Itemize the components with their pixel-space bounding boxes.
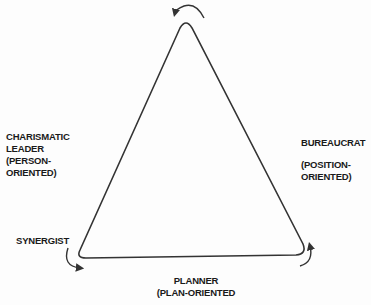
triangle-outline [79, 23, 304, 258]
diagram-canvas: CHARISMATIC LEADER (PERSON- ORIENTED) BU… [0, 0, 371, 305]
label-line: (PLAN-ORIENTED [146, 287, 246, 299]
charismatic-leader-label: CHARISMATIC LEADER (PERSON- ORIENTED) [6, 131, 70, 179]
label-line: (POSITION- [301, 159, 365, 171]
bottom-left-cycle-arrow-icon [67, 248, 81, 268]
planner-label: PLANNER (PLAN-ORIENTED [146, 275, 246, 299]
top-cycle-arrow-icon [175, 5, 204, 18]
label-line: CHARISMATIC [6, 131, 70, 143]
bottom-right-cycle-arrow-icon [300, 246, 311, 266]
synergist-label: SYNERGIST [16, 235, 69, 247]
label-line: ORIENTED) [301, 171, 365, 183]
spacer [301, 149, 365, 159]
label-line: PLANNER [146, 275, 246, 287]
label-line: LEADER [6, 143, 70, 155]
label-line: (PERSON- [6, 155, 70, 167]
bureaucrat-label: BUREAUCRAT (POSITION- ORIENTED) [301, 137, 365, 183]
label-line: BUREAUCRAT [301, 137, 365, 149]
label-line: ORIENTED) [6, 167, 70, 179]
